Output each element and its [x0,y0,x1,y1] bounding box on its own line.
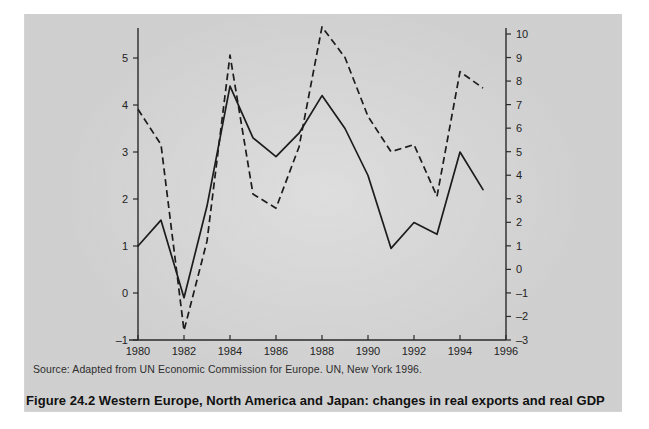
y-axis-left-tick-label: 0 [122,287,128,299]
y-axis-right-tick-label: 2 [516,216,522,228]
series-group [138,27,483,331]
x-axis-tick-label: 1982 [172,345,196,357]
y-axis-left-tick-label: 1 [122,240,128,252]
tick-labels-group: 543210–1109876543210–1–2–319801982198419… [116,28,529,357]
series-line-real-gdp [138,86,483,298]
axes-group [129,28,511,340]
y-axis-right-tick-label: 9 [516,52,522,64]
y-axis-right-tick-label: 7 [516,99,522,111]
y-axis-right-tick-label: –1 [516,287,528,299]
y-axis-left-tick-label: 2 [122,193,128,205]
x-axis-tick-label: 1986 [264,345,288,357]
y-axis-left-tick-label: 5 [122,52,128,64]
x-axis-tick-label: 1984 [218,345,242,357]
y-axis-right-tick-label: 6 [516,122,522,134]
y-axis-left-tick-label: 4 [122,99,128,111]
y-axis-left-tick-label: 3 [122,146,128,158]
x-axis-tick-label: 1988 [310,345,334,357]
y-axis-right-tick-label: –2 [516,310,528,322]
y-axis-right-tick-label: 8 [516,75,522,87]
x-axis-tick-label: 1996 [494,345,518,357]
x-axis-tick-label: 1990 [356,345,380,357]
source-note: Source: Adapted from UN Economic Commiss… [33,363,593,375]
y-axis-right-tick-label: 4 [516,169,522,181]
x-axis-tick-label: 1992 [402,345,426,357]
figure-container: 543210–1109876543210–1–2–319801982198419… [0,0,649,429]
series-line-real-exports [138,27,483,331]
y-axis-right-tick-label: 5 [516,146,522,158]
figure-caption: Figure 24.2 Western Europe, North Americ… [26,393,626,408]
y-axis-right-tick-label: 0 [516,263,522,275]
y-axis-right-tick-label: 1 [516,240,522,252]
y-axis-right-tick-label: 10 [516,28,528,40]
x-axis-tick-label: 1980 [126,345,150,357]
y-axis-right-tick-label: 3 [516,193,522,205]
x-axis-tick-label: 1994 [448,345,472,357]
